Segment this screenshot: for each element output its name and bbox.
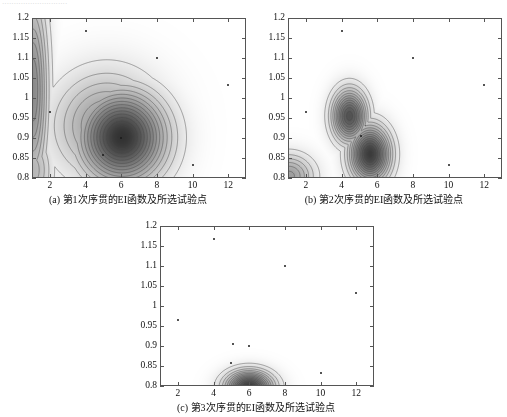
panel-a-ytick-mark [242,98,246,99]
top-cut-text: ···························· [2,0,122,8]
panel-a-ytick-label: 1.2 [17,13,29,23]
panel-b-xtick-mark [449,174,450,178]
panel-b-xtick-mark [377,174,378,178]
panel-c-xtick-mark [321,226,322,230]
panel-c-ytick-mark [370,386,374,387]
panel-b-ytick-mark [498,158,502,159]
panel-a-ytick-mark [242,118,246,119]
panel-b-ytick-mark [498,178,502,179]
panel-c-xtick-mark [214,382,215,386]
panel-b-xtick-mark [413,18,414,22]
panel-a-xtick-label: 12 [223,181,233,191]
panel-c-sample-point [248,345,250,347]
panel-a-ytick-mark [242,18,246,19]
panel-c-ytick-mark [370,266,374,267]
panel-b-ytick-mark [288,18,292,19]
panel-b-ytick-mark [498,138,502,139]
panel-b-sample-point [483,84,485,86]
panel-c-xtick-mark [178,382,179,386]
panel-a-xtick-mark [86,18,87,22]
panel-a-ytick-label: 0.9 [17,133,29,143]
panel-c-xtick-label: 4 [211,389,216,399]
panel-b-xtick-mark [306,174,307,178]
panel-c-ytick-mark [160,306,164,307]
panel-a-xtick-label: 2 [47,181,52,191]
panel-b-caption: (b) 第2次序贯的EI函数及所选试验点 [258,194,507,206]
panel-c-ytick-label: 1.15 [140,241,157,251]
panel-c-ytick-mark [370,246,374,247]
panel-b-xtick-mark [484,18,485,22]
panel-a-xtick-mark [193,174,194,178]
panel-a-ytick-mark [242,78,246,79]
panel-a-ytick-mark [32,118,36,119]
panel-a-sample-point [120,137,122,139]
panel-a-sample-point [156,57,158,59]
panel-b-ytick-label: 0.9 [273,133,285,143]
panel-c-ytick-mark [370,326,374,327]
panel-c-ytick-mark [160,266,164,267]
panel-a-sample-point [227,84,229,86]
panel-a-xtick-mark [157,18,158,22]
panel-c-xtick-mark [356,382,357,386]
panel-a-xtick-mark [121,18,122,22]
panel-b-ytick-mark [498,98,502,99]
panel-c-xtick-mark [249,226,250,230]
panel-a-xtick-mark [50,174,51,178]
panel-a-ytick-label: 0.8 [17,173,29,183]
panel-b-ytick-mark [288,38,292,39]
panel-c-ytick-label: 0.9 [145,341,157,351]
panel-b-ytick-label: 0.85 [268,153,285,163]
panel-b-ytick-mark [288,138,292,139]
panel-c-ytick-label: 1 [152,301,157,311]
panel-c-sample-point [230,362,232,364]
panel-c-ytick-mark [160,286,164,287]
panel-b-ytick-mark [288,98,292,99]
panel-c-xtick-mark [285,382,286,386]
panel-c-sample-point [355,292,357,294]
panel-c-xtick-mark [178,226,179,230]
panel-a-sample-point [85,30,87,32]
panel-a-ytick-mark [242,138,246,139]
panel-c-ytick-label: 0.85 [140,361,157,371]
panel-a-ytick-mark [32,38,36,39]
panel-a-ytick-mark [242,158,246,159]
panel-c-xtick-label: 12 [351,389,361,399]
panel-b-ytick-label: 1.05 [268,73,285,83]
panel-b-ytick-label: 1.1 [273,53,285,63]
panel-b-ytick-label: 1.2 [273,13,285,23]
panel-b-xtick-label: 8 [410,181,415,191]
panel-a-xtick-mark [121,174,122,178]
panel-c-xtick-label: 2 [175,389,180,399]
panel-b-xtick-label: 12 [479,181,489,191]
panel-b-xtick-mark [449,18,450,22]
panel-a-sample-point [49,111,51,113]
panel-a-caption: (a) 第1次序贯的EI函数及所选试验点 [2,194,254,206]
panel-b-sample-point [341,30,343,32]
panel-b-ytick-mark [288,78,292,79]
panel-a-xtick-mark [50,18,51,22]
panel-b-ytick-mark [288,178,292,179]
panel-c-xtick-mark [285,226,286,230]
panel-a-xtick-mark [193,18,194,22]
panel-a-ytick-label: 0.85 [12,153,29,163]
panel-a-xtick-label: 4 [83,181,88,191]
panel-c-xtick-mark [249,382,250,386]
panel-a-ytick-mark [32,58,36,59]
panel-a-ytick-mark [32,178,36,179]
panel-b-ytick-mark [498,58,502,59]
panel-c-ytick-label: 1.1 [145,261,157,271]
panel-c-ytick-mark [370,286,374,287]
panel-a-xtick-mark [228,18,229,22]
panel-c-axes-frame [160,226,374,386]
panel-c-xtick-mark [214,226,215,230]
panel-b-ytick-mark [498,78,502,79]
panel-c-ytick-mark [160,366,164,367]
panel-c-ytick-mark [370,366,374,367]
panel-c-ytick-mark [370,306,374,307]
panel-a-ytick-mark [32,98,36,99]
panel-a-xtick-label: 10 [188,181,198,191]
panel-b-ytick-mark [498,18,502,19]
panel-c-ytick-mark [160,386,164,387]
panel-b-ytick-label: 0.8 [273,173,285,183]
panel-a-sample-point [102,154,104,156]
